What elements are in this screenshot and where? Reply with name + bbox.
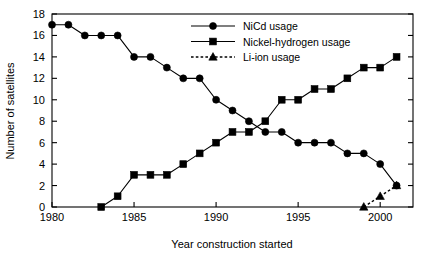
y-tick-label: 6 [39,137,45,149]
data-point-marker [163,64,170,71]
data-point-marker [229,129,236,136]
data-point-marker [131,171,138,178]
satellite-battery-usage-line-chart: 19801985199019952000 024681012141618 Yea… [0,0,423,255]
x-axis-title: Year construction started [171,238,292,250]
data-point-marker [393,53,400,60]
y-tick-label: 12 [33,72,45,84]
legend-label: Li-ion usage [243,51,300,63]
data-point-marker [262,128,269,135]
series-line [52,25,397,186]
data-point-marker [327,139,334,146]
x-tick-label: 1995 [286,211,310,223]
data-point-marker [49,21,56,28]
legend-marker-circle-icon [210,23,217,30]
y-tick-label: 10 [33,94,45,106]
y-tick-label: 14 [33,51,45,63]
legend-label: NiCd usage [243,20,298,32]
chart-legend: NiCd usageNickel-hydrogen usageLi-ion us… [191,20,351,63]
x-axis-tick-labels: 19801985199019952000 [40,211,393,223]
x-tick-label: 2000 [368,211,392,223]
data-point-marker [98,204,105,211]
data-point-marker [131,53,138,60]
data-point-marker [114,193,121,200]
data-point-marker [213,139,220,146]
data-point-marker [180,75,187,82]
data-point-marker [360,150,367,157]
data-point-marker [147,171,154,178]
data-point-marker [311,86,318,93]
legend-item-nicd-usage[interactable]: NiCd usage [191,20,298,32]
data-point-marker [81,32,88,39]
data-point-marker [213,96,220,103]
data-point-marker [360,64,367,71]
data-point-marker [196,150,203,157]
y-axis-tick-labels: 024681012141618 [33,8,45,213]
chart-figure: 19801985199019952000 024681012141618 Yea… [0,0,423,255]
data-point-marker [245,118,252,125]
data-point-marker [278,128,285,135]
data-point-marker [98,32,105,39]
data-point-marker [163,171,170,178]
y-tick-label: 8 [39,115,45,127]
x-tick-label: 1990 [204,211,228,223]
legend-marker-square-icon [210,38,217,45]
data-point-marker [229,107,236,114]
data-point-marker [180,161,187,168]
legend-item-li-ion-usage[interactable]: Li-ion usage [191,51,300,63]
data-point-marker [114,32,121,39]
data-point-marker [311,139,318,146]
data-point-marker [328,86,335,93]
x-tick-label: 1985 [122,211,146,223]
y-tick-label: 18 [33,8,45,20]
data-point-marker [344,75,351,82]
y-tick-label: 4 [39,158,45,170]
data-point-marker [196,75,203,82]
data-point-marker [376,192,384,200]
data-point-marker [377,64,384,71]
y-tick-label: 2 [39,180,45,192]
data-point-marker [262,118,269,125]
data-point-marker [344,150,351,157]
data-point-marker [246,129,253,136]
series-nickel-hydrogen-usage [98,53,400,210]
y-axis-title: Number of satellites [4,62,16,160]
data-point-marker [278,96,285,103]
data-point-marker [147,53,154,60]
data-point-marker [377,161,384,168]
data-point-marker [295,96,302,103]
legend-label: Nickel-hydrogen usage [243,36,351,48]
data-series-layer [49,21,401,210]
data-point-marker [360,203,368,211]
y-tick-label: 16 [33,29,45,41]
data-point-marker [65,21,72,28]
legend-item-nickel-hydrogen-usage[interactable]: Nickel-hydrogen usage [191,36,351,48]
y-tick-label: 0 [39,201,45,213]
data-point-marker [295,139,302,146]
